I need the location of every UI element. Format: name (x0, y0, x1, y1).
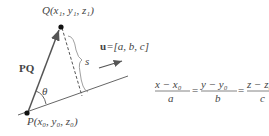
equation-equals-1: = (192, 84, 198, 96)
equation-z-numerator: z − z₀ (247, 78, 269, 90)
point-p-label: P(x₀, y₀, z₀) (27, 115, 78, 127)
equation-y-numerator: y − y₀ (201, 78, 228, 90)
angle-theta-label: θ (42, 85, 47, 97)
equation-equals-2: = (238, 84, 244, 96)
distance-s-label: s (85, 55, 89, 67)
direction-arrow (99, 61, 122, 68)
direction-vector-label: u=[a, b, c] (100, 40, 149, 52)
vector-pq-label: PQ (19, 62, 34, 74)
point-q (58, 24, 63, 29)
equation-y-denominator: b (215, 92, 221, 104)
equation-x-numerator: x − x₀ (155, 78, 182, 90)
point-q-label: Q(x₁, y₁, z₁) (42, 4, 94, 16)
equation-z-denominator: c (260, 92, 265, 104)
direction-vector-rest: =[a, b, c] (106, 40, 149, 52)
equation-x-denominator: a (168, 92, 174, 104)
